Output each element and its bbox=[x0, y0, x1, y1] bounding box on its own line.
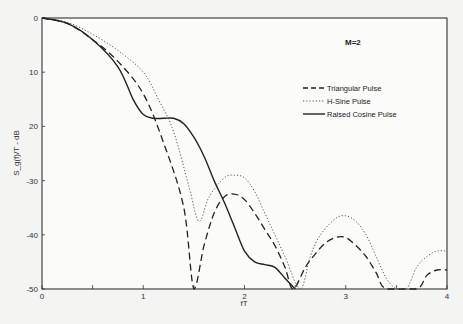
y-tick-label: 0 bbox=[34, 14, 39, 23]
y-axis-label: S_g(f)/T - dB bbox=[12, 130, 21, 176]
legend-item: Triangular Pulse bbox=[327, 84, 381, 93]
legend-item: Raised Cosine Pulse bbox=[327, 110, 397, 119]
y-tick-label: -30 bbox=[26, 177, 38, 186]
y-tick-label: 10 bbox=[29, 68, 38, 77]
y-tick-label: 20 bbox=[29, 122, 38, 131]
x-axis-label: fT bbox=[240, 299, 247, 308]
y-tick-label: -50 bbox=[26, 285, 38, 294]
legend-item: H-Sine Pulse bbox=[327, 97, 371, 106]
plot-frame bbox=[42, 18, 447, 289]
chart: 0123401020-30-40-50 Triangular PulseH-Si… bbox=[0, 0, 463, 324]
y-tick-label: -40 bbox=[26, 231, 38, 240]
x-tick-label: 1 bbox=[141, 292, 146, 301]
x-tick-label: 4 bbox=[445, 292, 450, 301]
x-tick-label: 3 bbox=[344, 292, 349, 301]
x-tick-label: 0 bbox=[40, 292, 45, 301]
annotation-m: M=2 bbox=[345, 38, 361, 47]
